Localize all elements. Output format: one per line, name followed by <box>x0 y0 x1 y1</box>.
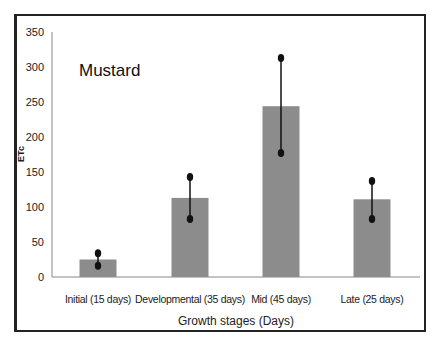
x-axis-label: Growth stages (Days) <box>178 314 294 328</box>
x-category-label: Developmental (35 days) <box>135 293 245 305</box>
y-tick-label: 250 <box>26 96 44 108</box>
x-category-label: Initial (15 days) <box>65 293 131 305</box>
x-category-label: Mid (45 days) <box>251 293 311 305</box>
error-bar-cap-upper <box>187 173 193 181</box>
y-tick-label: 300 <box>26 61 44 73</box>
y-tick-label: 150 <box>26 166 44 178</box>
y-tick-label: 200 <box>26 131 44 143</box>
error-bar-cap-upper <box>95 249 101 257</box>
error-bar-cap-lower <box>187 215 193 223</box>
error-bar-cap-lower <box>278 149 284 157</box>
y-tick-label: 100 <box>26 201 44 213</box>
chart-title: Mustard <box>79 61 140 80</box>
bar-chart: Mustard 050100150200250300350 Initial (1… <box>0 0 436 349</box>
y-tick-label: 350 <box>26 26 44 38</box>
error-bar-cap-lower <box>369 215 375 223</box>
error-bar-cap-lower <box>95 262 101 270</box>
error-bar-cap-upper <box>369 177 375 185</box>
y-tick-label: 0 <box>38 271 44 283</box>
y-tick-label: 50 <box>32 236 44 248</box>
bars <box>80 54 391 277</box>
x-category-label: Late (25 days) <box>341 293 404 305</box>
y-axis-ticks: 050100150200250300350 <box>26 26 44 283</box>
y-axis-label: ETc <box>16 146 26 162</box>
error-bar-cap-upper <box>278 54 284 62</box>
x-axis-categories: Initial (15 days)Developmental (35 days)… <box>65 293 404 305</box>
